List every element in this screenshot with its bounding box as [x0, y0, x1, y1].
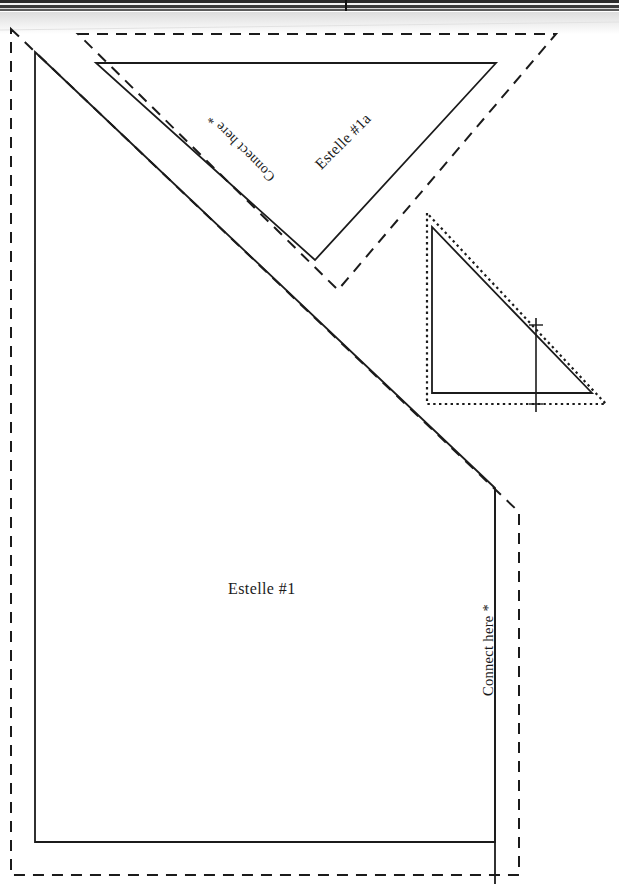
pattern-drawing [0, 0, 619, 884]
estelle-1-seam-line [11, 29, 519, 875]
scan-streak-line [0, 22, 619, 30]
pattern-page: Estelle #1 Estelle #1a Connect here * Co… [0, 0, 619, 884]
connect-here-label-right-edge: Connect here * [481, 604, 496, 696]
small-triangle-seam-line [427, 213, 606, 404]
small-triangle-cut-line [432, 227, 592, 393]
piece-label-estelle-1: Estelle #1 [228, 581, 296, 597]
